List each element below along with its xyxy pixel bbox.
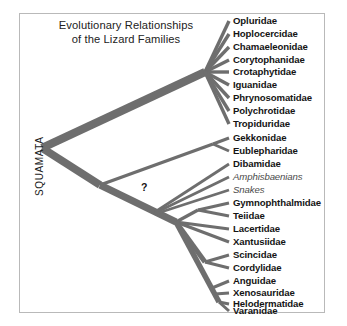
figure-title-line-1: Evolutionary Relationships [36,19,216,33]
taxon-label-lacertidae: Lacertidae [233,223,280,234]
branch-scleroglossa-trunk [42,148,100,185]
branch-teiioidea-stem [176,210,198,222]
taxon-label-dibamidae: Dibamidae [233,158,281,169]
branch-gekkonidae [213,138,229,144]
branch-iguania-trunk [42,72,205,148]
branch-cordylidae [205,262,229,268]
taxon-label-hoplocercidae: Hoplocercidae [233,28,298,39]
taxon-label-opluridae: Opluridae [233,15,277,26]
taxon-label-teiidae: Teiidae [233,210,265,221]
taxon-label-gymnophthalmidae: Gymnophthalmidae [233,197,321,208]
taxon-label-polychrotidae: Polychrotidae [233,105,295,116]
branch-teiidae [198,210,229,216]
taxon-label-scincidae: Scincidae [233,249,277,260]
taxon-label-corytophanidae: Corytophanidae [233,54,305,65]
taxon-label-xenosauridae: Xenosauridae [233,287,295,298]
branch-autarchoglossa-trunk [100,185,176,222]
taxon-label-varanidae: Varanidae [233,305,277,316]
taxon-label-amphisbaenians: Amphisbaenians [233,171,303,182]
branch-gekkota-stem [100,144,213,185]
uncertainty-question-mark: ? [141,181,147,193]
taxon-label-cordylidae: Cordylidae [233,262,282,273]
root-clade-label: SQUAMATA [34,137,45,196]
branch-xenosauridae [215,293,229,294]
taxon-label-snakes: Snakes [233,184,264,195]
taxon-label-xantusiidae: Xantusiidae [233,236,286,247]
taxon-label-phrynosomatidae: Phrynosomatidae [233,92,312,103]
branch-anguimorpha-trunk [176,222,219,302]
taxon-label-gekkonidae: Gekkonidae [233,132,286,143]
branch-anguidae [212,281,229,288]
taxon-label-anguidae: Anguidae [233,275,276,286]
figure-title: Evolutionary Relationships of the Lizard… [36,19,216,46]
figure-title-line-2: of the Lizard Families [36,33,216,47]
branch-scincidae [205,255,229,262]
taxon-label-chamaeleonidae: Chamaeleonidae [233,41,308,52]
taxon-label-iguanidae: Iguanidae [233,79,277,90]
taxon-label-crotaphytidae: Crotaphytidae [233,66,296,77]
taxon-label-eublepharidae: Eublepharidae [233,145,298,156]
taxon-label-tropiduridae: Tropiduridae [233,118,290,129]
figure-canvas: Evolutionary Relationships of the Lizard… [0,0,347,326]
branch-eublepharidae [213,144,229,151]
branch-gymnophthalmidae [198,203,229,210]
